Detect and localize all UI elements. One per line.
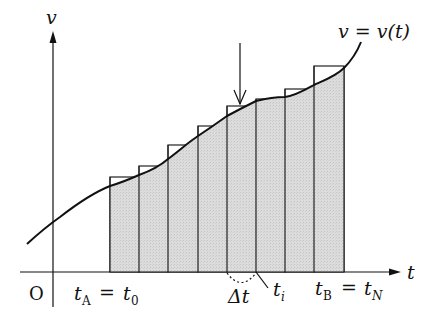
svg-text:t: t bbox=[273, 278, 281, 300]
svg-text:0: 0 bbox=[131, 294, 139, 308]
ti-leader-line bbox=[256, 272, 268, 288]
ti-label: t i bbox=[273, 278, 285, 304]
x-axis-label: t bbox=[407, 261, 415, 283]
svg-text:N: N bbox=[371, 289, 383, 303]
svg-text:t: t bbox=[74, 282, 82, 304]
svg-text:B: B bbox=[323, 289, 332, 303]
end-time-label: t B = t N bbox=[315, 276, 383, 303]
origin-label: O bbox=[29, 283, 44, 304]
svg-text:A: A bbox=[81, 294, 91, 308]
delta-t-arc bbox=[227, 273, 256, 283]
y-axis-label: v bbox=[46, 6, 57, 28]
delta-t-label: Δt bbox=[227, 285, 250, 307]
start-time-label: t A = t 0 bbox=[74, 281, 139, 308]
down-arrow-icon bbox=[234, 43, 246, 104]
y-axis-arrow-icon bbox=[50, 31, 57, 43]
svg-text:=: = bbox=[341, 276, 357, 298]
svg-text:t: t bbox=[123, 282, 131, 304]
riemann-sum-diagram: v t O v = v(t) t A = t 0 Δt t i t B = t … bbox=[0, 0, 431, 329]
x-axis-arrow-icon bbox=[389, 269, 401, 276]
svg-text:t: t bbox=[315, 277, 323, 299]
svg-text:=: = bbox=[99, 281, 115, 303]
svg-text:i: i bbox=[281, 290, 285, 304]
curve-label: v = v(t) bbox=[338, 20, 410, 42]
svg-text:t: t bbox=[364, 277, 372, 299]
